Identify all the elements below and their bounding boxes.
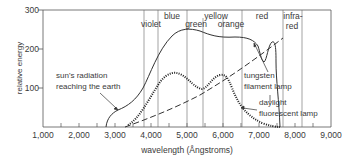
x-tick-4000: 4,000 bbox=[140, 130, 162, 140]
band-blue: blue bbox=[164, 11, 180, 21]
y-axis-label: relative energy bbox=[15, 42, 24, 94]
sun-label-line1: sun's radiation bbox=[56, 71, 107, 80]
y-tick-100: 100 bbox=[25, 83, 39, 93]
x-axis-label: wavelength (Ångstroms) bbox=[140, 145, 233, 155]
band-violet: violet bbox=[141, 19, 161, 29]
y-tick-300: 300 bbox=[25, 5, 39, 15]
x-tick-5000: 5,000 bbox=[176, 130, 198, 140]
band-red: red bbox=[256, 11, 269, 21]
x-tick-8000: 8,000 bbox=[284, 130, 306, 140]
daylight-curve bbox=[128, 73, 280, 127]
spectrum-chart: 300 200 100 relative energy 1,000 2,000 … bbox=[0, 0, 354, 162]
daylight-label-line2: fluorescent lamp bbox=[259, 109, 318, 118]
tungsten-label-line1: tungsten bbox=[244, 71, 275, 80]
x-tick-1000: 1,000 bbox=[32, 130, 54, 140]
tungsten-label-line2: filament lamp bbox=[244, 82, 292, 91]
x-tick-7000: 7,000 bbox=[248, 130, 270, 140]
band-orange: orange bbox=[218, 19, 245, 29]
band-infrared-line2: red bbox=[286, 21, 299, 31]
y-tick-200: 200 bbox=[25, 44, 39, 54]
x-tick-6000: 6,000 bbox=[212, 130, 234, 140]
band-infrared-line1: infra- bbox=[283, 11, 303, 21]
x-tick-3000: 3,000 bbox=[104, 130, 126, 140]
sun-label-line2: reaching the earth bbox=[56, 82, 121, 91]
x-tick-2000: 2,000 bbox=[68, 130, 90, 140]
x-tick-9000: 9,000 bbox=[320, 130, 342, 140]
daylight-label-line1: daylight bbox=[259, 98, 287, 107]
